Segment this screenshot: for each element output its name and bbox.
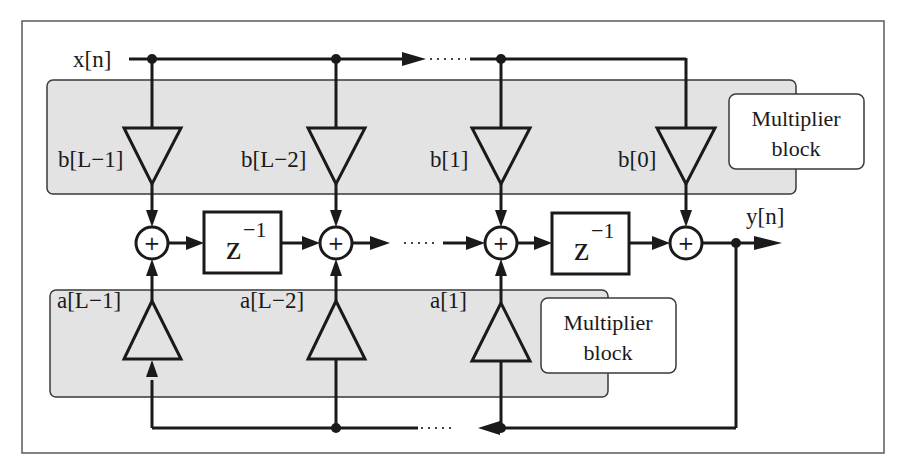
iir-filter-diagram: Multiplier block Multiplier block x[n] b… bbox=[0, 0, 906, 476]
adder-3: + bbox=[485, 227, 517, 259]
adder-4: + bbox=[670, 227, 702, 259]
svg-text:+: + bbox=[328, 231, 345, 255]
adder-2: + bbox=[320, 227, 352, 259]
coef-b-L-2: b[L−2] bbox=[241, 147, 306, 172]
svg-text:+: + bbox=[678, 231, 695, 255]
svg-text:z: z bbox=[574, 230, 589, 267]
svg-text:+: + bbox=[493, 231, 510, 255]
coef-b-0: b[0] bbox=[618, 147, 656, 172]
delay-block-2: z −1 bbox=[552, 213, 629, 274]
feedback-callout-line1: Multiplier bbox=[563, 310, 653, 335]
diagram-stage: Multiplier block Multiplier block x[n] b… bbox=[0, 0, 906, 476]
coef-b-1: b[1] bbox=[430, 147, 468, 172]
adder-1: + bbox=[136, 227, 168, 259]
delay-block-1: z −1 bbox=[204, 212, 281, 273]
input-label: x[n] bbox=[73, 47, 111, 72]
coef-a-1: a[1] bbox=[430, 288, 467, 313]
svg-text:z: z bbox=[226, 229, 241, 266]
coef-a-L-2: a[L−2] bbox=[240, 288, 304, 313]
feedforward-callout-line2: block bbox=[772, 136, 821, 161]
output-label: y[n] bbox=[746, 204, 784, 229]
svg-text:−1: −1 bbox=[591, 218, 614, 243]
coef-a-L-1: a[L−1] bbox=[57, 288, 121, 313]
feedback-callout-line2: block bbox=[584, 340, 633, 365]
feedback-multiplier-block bbox=[50, 290, 608, 397]
feedback-callout: Multiplier block bbox=[541, 298, 676, 373]
feedforward-callout-line1: Multiplier bbox=[751, 106, 841, 131]
svg-text:+: + bbox=[144, 231, 161, 255]
coef-b-L-1: b[L−1] bbox=[58, 147, 123, 172]
svg-text:−1: −1 bbox=[243, 217, 266, 242]
feedforward-callout: Multiplier block bbox=[729, 94, 864, 169]
